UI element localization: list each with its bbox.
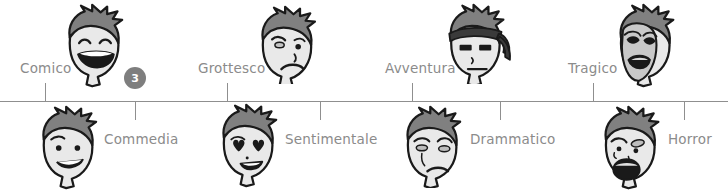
axis-tick-drammatico [500,102,501,120]
axis-tick-grottesco [227,83,228,101]
genre-label-commedia[interactable]: Commedia [104,133,179,147]
adventure-face [443,2,519,84]
genre-label-tragico[interactable]: Tragico [568,62,618,76]
axis-tick-avventura [412,83,413,101]
genre-label-sentimentale[interactable]: Sentimentale [285,133,378,147]
grotesque-face [255,4,319,84]
horror-face [598,104,670,190]
tragic-mask-face [613,2,685,88]
step-badge-3[interactable]: 3 [124,67,146,89]
love-face [216,102,284,188]
axis-tick-sentimentale [320,102,321,120]
genre-label-horror[interactable]: Horror [668,133,712,147]
axis-tick-comico [45,83,46,101]
genre-scale-diagram: ComicoGrottescoAvventuraTragicoCommediaS… [0,0,728,190]
laughing-face [62,2,128,90]
axis-tick-horror [684,102,685,120]
axis-tick-commedia [135,102,136,120]
dramatic-face [400,104,468,188]
axis-tick-tragico [593,83,594,101]
step-badge-label: 3 [131,72,139,85]
genre-label-drammatico[interactable]: Drammatico [470,133,556,147]
smiling-face [36,104,102,190]
timeline-axis [0,101,728,102]
